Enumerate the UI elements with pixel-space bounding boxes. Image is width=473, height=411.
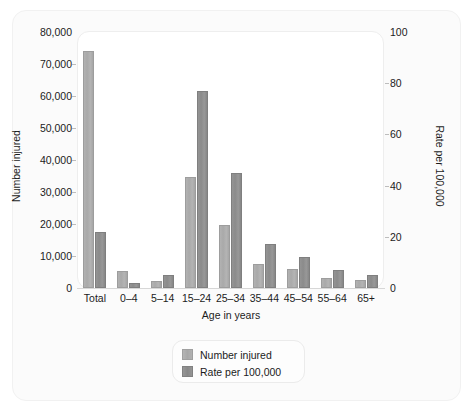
y-axis-left-tick-mark (72, 224, 76, 225)
y-axis-right-tick-label: 40 (390, 180, 424, 192)
x-axis-tick-label: 15–24 (182, 292, 211, 304)
legend-item-rate-per-100000: Rate per 100,000 (182, 364, 295, 379)
chart-legend: Number injured Rate per 100,000 (172, 340, 305, 383)
bar-number-injured (185, 177, 196, 288)
y-axis-left-tick-label: 0 (0, 282, 72, 294)
y-axis-left-tick-mark (72, 160, 76, 161)
x-axis-tick-label: 35–44 (250, 292, 279, 304)
bar-rate-per-100000 (163, 275, 174, 288)
bar-rate-per-100000 (265, 244, 276, 288)
bar-rate-per-100000 (367, 275, 378, 288)
chart-figure: 010,00020,00030,00040,00050,00060,00070,… (0, 0, 473, 411)
y-axis-right-title: Rate per 100,000 (434, 106, 446, 226)
y-axis-right-tick-mark (385, 134, 389, 135)
legend-swatch-icon (182, 349, 193, 360)
legend-item-label: Number injured (200, 349, 272, 361)
bar-rate-per-100000 (197, 91, 208, 288)
y-axis-left-tick-mark (72, 192, 76, 193)
y-axis-right-tick-label: 60 (390, 128, 424, 140)
legend-item-number-injured: Number injured (182, 347, 295, 362)
x-axis-tick-label: 55–64 (318, 292, 347, 304)
y-axis-right-tick-mark (385, 186, 389, 187)
bar-number-injured (117, 271, 128, 288)
y-axis-right-tick-mark (385, 237, 389, 238)
y-axis-left-tick-mark (72, 256, 76, 257)
y-axis-right-tick-label: 0 (390, 282, 424, 294)
y-axis-left-title: Number injured (10, 106, 22, 226)
y-axis-left-tick-mark (72, 128, 76, 129)
bars-container (78, 32, 383, 288)
y-axis-left-tick-label: 80,000 (0, 26, 72, 38)
bar-number-injured (321, 278, 332, 288)
x-axis-tick-label: 25–34 (216, 292, 245, 304)
bar-rate-per-100000 (231, 173, 242, 288)
bar-rate-per-100000 (299, 257, 310, 288)
x-axis-tick-label: 45–54 (284, 292, 313, 304)
x-axis-tick-label: 65+ (357, 292, 375, 304)
y-axis-left-tick-mark (72, 96, 76, 97)
x-axis-tick-label: 5–14 (151, 292, 174, 304)
y-axis-right-tick-label: 20 (390, 231, 424, 243)
y-axis-left-tick-label: 10,000 (0, 250, 72, 262)
x-axis-baseline (77, 288, 385, 289)
y-axis-right-tick-label: 100 (390, 26, 424, 38)
bar-rate-per-100000 (333, 270, 344, 288)
bar-number-injured (83, 51, 94, 288)
bar-rate-per-100000 (129, 283, 140, 288)
bar-number-injured (151, 281, 162, 288)
x-axis-tick-label: 0–4 (120, 292, 138, 304)
x-axis-title: Age in years (77, 309, 385, 321)
y-axis-right-ticks: 020406080100 (390, 0, 430, 411)
bar-number-injured (355, 280, 366, 288)
bar-number-injured (287, 269, 298, 288)
bar-rate-per-100000 (95, 232, 106, 288)
bar-number-injured (219, 225, 230, 288)
legend-item-label: Rate per 100,000 (200, 366, 281, 378)
y-axis-right-tick-mark (385, 83, 389, 84)
y-axis-left-tick-mark (72, 64, 76, 65)
x-axis-tick-label: Total (84, 292, 106, 304)
y-axis-right-tick-label: 80 (390, 77, 424, 89)
bar-number-injured (253, 264, 264, 288)
y-axis-left-tick-label: 60,000 (0, 90, 72, 102)
legend-swatch-icon (182, 366, 193, 377)
y-axis-left-tick-label: 70,000 (0, 58, 72, 70)
